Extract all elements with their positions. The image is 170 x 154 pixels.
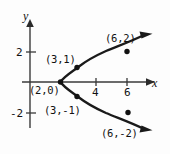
y-axis (26, 19, 36, 128)
x-tick-label-6: 6 (124, 87, 131, 98)
y-tick-label-neg2: -2 (10, 108, 23, 119)
point-label-6-2: (6,2) (105, 33, 136, 44)
y-tick-label-2: 2 (16, 47, 23, 58)
point-3-neg1 (74, 94, 79, 99)
point-label-3-1: (3,1) (45, 54, 76, 65)
x-axis-label: x (152, 77, 157, 89)
point-6-neg2 (125, 110, 130, 115)
point-label-2-0: (2,0) (29, 85, 60, 96)
parabola-figure: y x 2 -2 4 6 (3,1) (6,2) (2,0) (3,-1) (6… (0, 0, 170, 154)
point-3-1 (74, 65, 79, 70)
y-axis-label: y (23, 10, 28, 22)
point-label-6-neg2: (6,-2) (101, 128, 138, 139)
point-label-3-neg1: (3,-1) (44, 105, 81, 116)
x-tick-label-4: 4 (92, 87, 99, 98)
graph-canvas (0, 0, 170, 154)
point-6-2 (124, 49, 129, 54)
